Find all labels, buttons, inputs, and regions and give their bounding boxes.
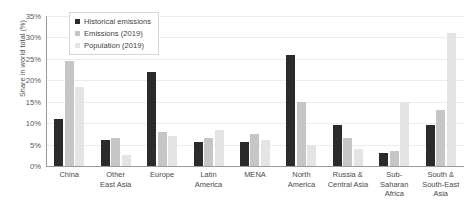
bar: [379, 153, 388, 166]
x-axis-category-label: Europe: [139, 170, 185, 199]
bar: [390, 151, 399, 166]
x-axis-category-label: Russia & Central Asia: [325, 170, 371, 199]
y-axis-tick-label: 15%: [26, 97, 41, 106]
bar: [400, 102, 409, 166]
y-axis-tick-label: 10%: [26, 119, 41, 128]
x-axis-category-label: South & South-East Asia: [418, 170, 464, 199]
bar: [354, 149, 363, 166]
bar: [158, 132, 167, 166]
bar: [436, 110, 445, 166]
bar: [194, 142, 203, 166]
legend-item[interactable]: Historical emissions: [75, 17, 151, 26]
bar: [343, 138, 352, 166]
gridline: 0%: [46, 166, 464, 167]
bar-chart: Share in world total (%) 35%30%25%20%15%…: [0, 0, 472, 204]
bar-group: [325, 16, 371, 166]
bar-group: [371, 16, 417, 166]
legend-swatch-icon: [75, 43, 80, 48]
legend-label: Emissions (2019): [84, 29, 143, 38]
legend-label: Population (2019): [84, 41, 144, 50]
bar: [111, 138, 120, 166]
bar: [333, 125, 342, 166]
bar: [168, 136, 177, 166]
y-axis-tick-label: 25%: [26, 54, 41, 63]
y-axis-tick-label: 20%: [26, 76, 41, 85]
y-axis-tick-label: 5%: [30, 140, 41, 149]
bar: [426, 125, 435, 166]
bar-group: [232, 16, 278, 166]
x-axis-category-label: MENA: [232, 170, 278, 199]
bar-group: [278, 16, 324, 166]
legend-item[interactable]: Emissions (2019): [75, 29, 151, 38]
bar-group: [418, 16, 464, 166]
bar: [286, 55, 295, 166]
x-axis-category-labels: ChinaOther East AsiaEuropeLatin AmericaM…: [46, 170, 464, 199]
bar: [307, 145, 316, 166]
chart-legend: Historical emissionsEmissions (2019)Popu…: [69, 12, 159, 55]
bar: [54, 119, 63, 166]
bar: [215, 130, 224, 166]
bar: [250, 134, 259, 166]
bar: [122, 155, 131, 166]
bar-group: [185, 16, 231, 166]
x-axis-category-label: North America: [278, 170, 324, 199]
y-axis-tick-label: 35%: [26, 12, 41, 21]
bar: [204, 138, 213, 166]
legend-swatch-icon: [75, 19, 80, 24]
x-axis-category-label: Other East Asia: [92, 170, 138, 199]
legend-item[interactable]: Population (2019): [75, 41, 151, 50]
bar: [65, 61, 74, 166]
bar: [147, 72, 156, 166]
bar: [240, 142, 249, 166]
y-axis-tick-label: 30%: [26, 33, 41, 42]
bar: [447, 33, 456, 166]
bar: [297, 102, 306, 166]
legend-swatch-icon: [75, 31, 80, 36]
bar: [261, 140, 270, 166]
x-axis-category-label: Latin America: [185, 170, 231, 199]
bar: [75, 87, 84, 166]
legend-label: Historical emissions: [84, 17, 151, 26]
x-axis-category-label: Sub- Saharan Africa: [371, 170, 417, 199]
bar: [101, 140, 110, 166]
y-axis-tick-label: 0%: [30, 162, 41, 171]
x-axis-category-label: China: [46, 170, 92, 199]
